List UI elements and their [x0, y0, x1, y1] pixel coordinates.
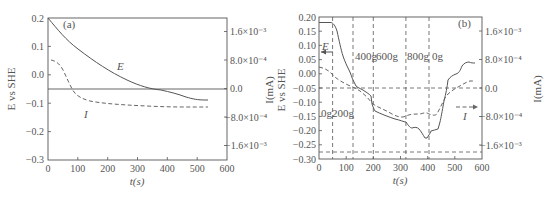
y2-tick-label: −8.0×10⁻⁴ — [225, 112, 268, 123]
y2-axis-title: I(mA) — [531, 75, 544, 103]
y2-tick-label: −1.6×10⁻³ — [480, 140, 522, 151]
y-tick-label: −0.25 — [293, 139, 316, 150]
y-tick-label: −0.20 — [293, 125, 316, 136]
panel-label-b: (b) — [458, 17, 471, 30]
y-tick-label: −0.30 — [293, 154, 316, 165]
series-e-label: E — [321, 40, 329, 52]
y-axis-left-a: 0.2 0.1 0.0 −0.1 −0.2 −0.3 — [26, 13, 51, 165]
y-tick-label: 0.00 — [299, 68, 317, 79]
y-tick-label: 0.1 — [32, 41, 45, 52]
y-tick-label: 0.20 — [299, 12, 317, 23]
y-tick-label: −0.1 — [26, 98, 44, 109]
series-e-line — [319, 23, 475, 139]
x-tick-label: 400 — [420, 162, 435, 173]
load-label-0g-200g: 0g200g — [321, 107, 355, 119]
x-tick-label: 300 — [130, 163, 145, 174]
y-axis-title: E vs SHE — [275, 68, 287, 111]
x-tick-label: 100 — [339, 162, 354, 173]
load-label-600g: 600g — [376, 50, 399, 62]
load-label-800g: 800g — [407, 50, 430, 62]
y-axis-title: E vs SHE — [5, 67, 17, 110]
panel-label-a: (a) — [63, 18, 76, 31]
series-i-label: I — [83, 108, 89, 120]
y-tick-label: 0.05 — [299, 54, 317, 65]
y-axis-title-outer: I(mA) — [263, 76, 276, 104]
x-tick-label: 600 — [475, 162, 490, 173]
x-tick-label: 400 — [160, 163, 175, 174]
series-i-line — [51, 60, 208, 107]
x-tick-label: 500 — [447, 162, 462, 173]
y-tick-label: −0.15 — [293, 111, 316, 122]
load-label-400g: 400g — [355, 50, 378, 62]
y-tick-label: 0.10 — [299, 40, 317, 51]
y2-tick-label: 0.0 — [485, 83, 498, 94]
x-axis-a: 0 100 200 300 400 500 600 t(s) — [46, 157, 235, 188]
x-tick-label: 200 — [100, 163, 115, 174]
y2-tick-label: 8.0×10⁻⁴ — [485, 54, 522, 65]
figure: 0.2 0.1 0.0 −0.1 −0.2 −0.3 1.6×10⁻³ 8.0×… — [0, 0, 548, 200]
x-tick-label: 300 — [393, 162, 408, 173]
y-axis-right-b: 1.6×10⁻³ 8.0×10⁻⁴ 0.0 −8.0×10⁻⁴ −1.6×10⁻… — [479, 26, 523, 151]
y-tick-label: −0.2 — [26, 126, 44, 137]
y-tick-label: 0.0 — [32, 69, 45, 80]
y-tick-label: −0.05 — [293, 83, 316, 94]
y-tick-label: −0.10 — [293, 97, 316, 108]
y-tick-label: 0.2 — [32, 13, 45, 24]
x-axis-title: t(s) — [393, 174, 408, 187]
y2-tick-label: 1.6×10⁻³ — [230, 26, 266, 37]
load-label-0g-end: 0g — [432, 50, 444, 62]
y-axis-left-b: 0.20 0.15 0.10 0.05 0.00 −0.05 −0.10 −0.… — [293, 12, 322, 165]
y2-tick-label: 0.0 — [230, 83, 243, 94]
x-tick-label: 0 — [46, 163, 51, 174]
series-e-label: E — [116, 60, 124, 72]
x-axis-title: t(s) — [130, 175, 145, 188]
arrow-right-icon — [473, 105, 478, 110]
x-tick-label: 200 — [366, 162, 381, 173]
x-tick-label: 100 — [70, 163, 85, 174]
y-tick-label: 0.15 — [299, 26, 317, 37]
x-axis-b: 0 100 200 300 400 500 600 t(s) — [317, 156, 490, 187]
series-i-label: I — [462, 110, 468, 122]
x-tick-label: 500 — [190, 163, 205, 174]
panel-b: 0.20 0.15 0.10 0.05 0.00 −0.05 −0.10 −0.… — [263, 12, 544, 188]
x-tick-label: 0 — [317, 162, 322, 173]
x-tick-label: 600 — [220, 163, 235, 174]
y2-tick-label: 8.0×10⁻⁴ — [230, 55, 267, 66]
y2-tick-label: −1.6×10⁻³ — [225, 140, 267, 151]
y-tick-label: −0.3 — [26, 154, 44, 165]
panel-a: 0.2 0.1 0.0 −0.1 −0.2 −0.3 1.6×10⁻³ 8.0×… — [5, 13, 268, 188]
y-axis-right-a: 1.6×10⁻³ 8.0×10⁻⁴ 0.0 −8.0×10⁻⁴ −1.6×10⁻… — [224, 26, 268, 151]
y2-tick-label: −8.0×10⁻⁴ — [480, 111, 523, 122]
y2-tick-label: 1.6×10⁻³ — [485, 26, 521, 37]
